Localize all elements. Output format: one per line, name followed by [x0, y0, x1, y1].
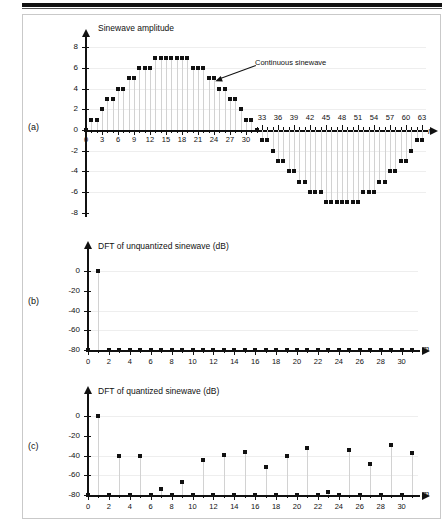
panel-a-xtick-label: 57 [382, 113, 398, 122]
panel-b-data-marker [138, 348, 142, 352]
page-header-rule [22, 3, 442, 7]
panel-a-data-marker [276, 159, 280, 163]
panel-b-data-marker [191, 348, 195, 352]
panel-c-xtick [349, 495, 350, 498]
panel-a-data-marker [148, 66, 152, 70]
panel-a-stem [145, 68, 146, 130]
panel-c-stem [140, 456, 141, 495]
panel-c-data-marker [117, 454, 121, 458]
panel-c-data-marker [326, 490, 330, 494]
panel-c-data-marker [295, 493, 299, 497]
panel-b-xtick-label: 12 [205, 357, 221, 366]
panel-a-ytick [82, 89, 89, 90]
panel-a-annotation: Continuous sinewave [255, 58, 326, 67]
panel-b: (b) DFT of unquantized sinewave (dB) m 0… [0, 238, 447, 368]
panel-b-data-marker [180, 348, 184, 352]
panel-c-data-marker [264, 465, 268, 469]
panel-a-data-marker [185, 56, 189, 60]
panel-c-stem [349, 450, 350, 495]
panel-c-stem [224, 455, 225, 495]
panel-a-xtick-label: 0 [78, 135, 94, 144]
panel-c-stem [391, 445, 392, 495]
gridline [88, 416, 418, 417]
panel-b-xtick-label: 2 [101, 357, 117, 366]
panel-a-data-marker [84, 128, 88, 132]
panel-a-stem [203, 68, 204, 130]
panel-a-stem [113, 99, 114, 130]
panel-b-data-marker [326, 348, 330, 352]
figure-page: (a) Sinewave amplitude n Continuous sine… [0, 0, 447, 524]
panel-c-y-axis [87, 394, 89, 497]
panel-a-letter: (a) [28, 122, 39, 132]
panel-a-xtick-label: 33 [254, 113, 270, 122]
panel-a-stem [177, 58, 178, 130]
panel-c-stem [98, 416, 99, 495]
panel-b-data-marker [337, 348, 341, 352]
panel-a-ytick-label: -2 [56, 146, 78, 155]
panel-c-x-axis-arrow [422, 492, 430, 500]
panel-c-data-marker [201, 458, 205, 462]
panel-a-xtick-label: 21 [190, 135, 206, 144]
panel-a-data-marker [404, 159, 408, 163]
panel-c-data-marker [379, 493, 383, 497]
panel-a-data-marker [116, 87, 120, 91]
panel-a-data-marker [153, 56, 157, 60]
panel-b-data-marker [295, 348, 299, 352]
panel-b-xtick-label: 26 [352, 357, 368, 366]
panel-a-stem [214, 78, 215, 130]
panel-c-xtick-label: 16 [247, 502, 263, 511]
panel-a-stem [358, 130, 359, 202]
panel-c-data-marker [253, 493, 257, 497]
panel-c-xtick [203, 495, 204, 498]
panel-b-xtick-label: 28 [373, 357, 389, 366]
panel-c-xtick-label: 2 [101, 502, 117, 511]
panel-a-stem [182, 58, 183, 130]
panel-b-xtick-label: 14 [226, 357, 242, 366]
panel-c-data-marker [368, 462, 372, 466]
gridline [86, 151, 426, 152]
panel-c-ytick-label: 0 [58, 411, 80, 420]
panel-b-ytick-label: -40 [58, 306, 80, 315]
panel-a-stem [107, 99, 108, 130]
panel-a-stem [235, 99, 236, 130]
panel-c-ytick-label: -40 [58, 451, 80, 460]
panel-a-data-marker [121, 87, 125, 91]
panel-c-xtick-label: 24 [331, 502, 347, 511]
panel-a-data-marker [180, 56, 184, 60]
panel-a-data-marker [324, 200, 328, 204]
panel-b-xtick-label: 22 [310, 357, 326, 366]
panel-b-data-marker [222, 348, 226, 352]
gridline [86, 171, 426, 172]
panel-c-xtick [245, 495, 246, 498]
panel-a-stem [171, 58, 172, 130]
panel-a-data-marker [228, 97, 232, 101]
panel-a-data-marker [196, 66, 200, 70]
panel-a-data-marker [356, 200, 360, 204]
panel-c-xtick [370, 495, 371, 498]
panel-c-xtick-label: 0 [80, 502, 96, 511]
panel-a-xtick-label: 27 [222, 135, 238, 144]
panel-b-ytick-label: -80 [58, 345, 80, 354]
panel-a-stem [395, 130, 396, 171]
panel-b-xtick-label: 4 [122, 357, 138, 366]
panel-b-xtick-label: 6 [143, 357, 159, 366]
panel-b-xtick-label: 8 [164, 357, 180, 366]
panel-c-xtick [266, 495, 267, 498]
panel-b-ytick-label: -20 [58, 286, 80, 295]
panel-a-data-marker [239, 107, 243, 111]
panel-a-stem [289, 130, 290, 171]
panel-a-stem [198, 68, 199, 130]
panel-b-data-marker [389, 348, 393, 352]
panel-c-xtick-label: 6 [143, 502, 159, 511]
panel-b-data-marker [170, 348, 174, 352]
panel-c-stem [307, 448, 308, 495]
panel-b-xtick-label: 10 [185, 357, 201, 366]
panel-a-stem [353, 130, 354, 202]
panel-a-data-marker [351, 200, 355, 204]
panel-b-ytick-label: 0 [58, 266, 80, 275]
panel-a-ytick-label: 6 [56, 63, 78, 72]
panel-a-stem [241, 109, 242, 130]
panel-c-data-marker [274, 493, 278, 497]
panel-c-data-marker [337, 493, 341, 497]
panel-a-data-marker [201, 66, 205, 70]
